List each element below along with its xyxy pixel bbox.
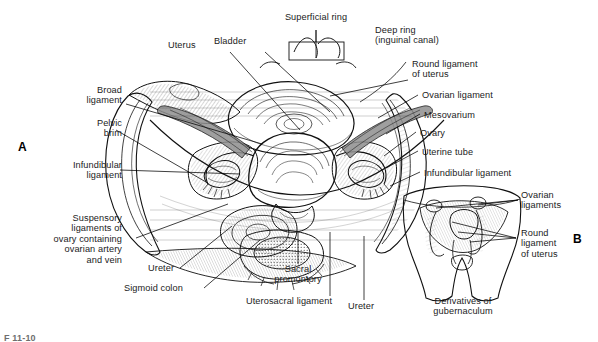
label-infundibular-ligament-left: Infundibular ligament	[0, 160, 122, 181]
panel-letter-a: A	[18, 140, 27, 154]
label-ureter-left: Ureter	[148, 263, 174, 273]
label-suspensory-ligaments: Suspensory ligaments of ovary containing…	[0, 213, 122, 265]
panel-a-drawing	[106, 30, 444, 290]
broad-ligament-wings	[188, 142, 396, 199]
label-derivatives-of-gubernaculum: Derivatives of gubernaculum	[398, 296, 528, 317]
label-ovarian-ligaments: Ovarian ligaments	[521, 190, 561, 211]
label-broad-ligament: Broad ligament	[0, 85, 122, 106]
figure-caption-id: F 11-10	[4, 333, 36, 342]
superficial-ring-bracket	[289, 30, 344, 60]
label-pelvic-brim: Pelvic brim	[0, 118, 122, 139]
label-ovarian-ligament: Ovarian ligament	[422, 90, 493, 100]
bladder	[228, 82, 353, 155]
deep-ring-marks	[260, 62, 356, 68]
label-sacral-promontory: Sacral promontory	[264, 264, 332, 285]
label-ureter-right: Ureter	[348, 301, 374, 311]
label-round-ligament-of-uterus-b: Round ligament of uterus	[521, 228, 558, 259]
label-uterosacral-ligament: Uterosacral ligament	[246, 296, 332, 306]
label-mesovarium: Mesovarium	[424, 110, 475, 120]
figure-root: A B Superficial ring Deep ring (inguinal…	[0, 0, 598, 342]
label-superficial-ring: Superficial ring	[263, 12, 369, 22]
label-sigmoid-colon: Sigmoid colon	[124, 283, 183, 293]
label-ovary: Ovary	[420, 128, 445, 138]
label-infundibular-ligament-right: Infundibular ligament	[424, 168, 511, 178]
label-deep-ring: Deep ring (inguinal canal)	[375, 25, 439, 46]
panel-letter-b: B	[573, 232, 582, 246]
label-bladder: Bladder	[214, 36, 246, 46]
label-uterus: Uterus	[168, 40, 196, 50]
label-round-ligament-of-uterus: Round ligament of uterus	[412, 59, 478, 80]
label-uterine-tube: Uterine tube	[422, 147, 473, 157]
